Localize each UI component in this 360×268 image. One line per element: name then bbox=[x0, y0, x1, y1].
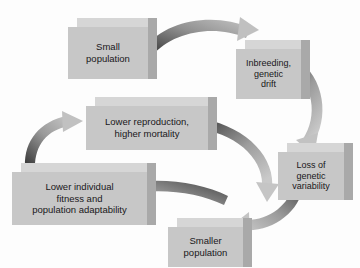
node-lower-reproduction[interactable]: Lower reproduction, higher mortality bbox=[86, 97, 217, 150]
box-top-face bbox=[77, 18, 157, 27]
box-front-face: Small population bbox=[68, 27, 148, 79]
box-front-face: Smaller population bbox=[168, 227, 243, 267]
node-small-population[interactable]: Small population bbox=[68, 18, 157, 79]
box-front-face: Loss of genetic variability bbox=[278, 152, 344, 200]
box-side-face bbox=[344, 143, 353, 200]
box-front-face: Lower individual fitness and population … bbox=[12, 172, 147, 225]
box-front-face: Lower reproduction, higher mortality bbox=[86, 106, 208, 150]
box-side-face bbox=[243, 218, 252, 267]
node-label: Loss of genetic variability bbox=[278, 160, 344, 193]
box-top-face bbox=[21, 163, 156, 172]
node-lower-individual-fitness[interactable]: Lower individual fitness and population … bbox=[12, 163, 156, 225]
box-side-face bbox=[208, 97, 217, 150]
node-label: Lower reproduction, higher mortality bbox=[86, 116, 208, 139]
box-side-face bbox=[147, 163, 156, 225]
box-side-face bbox=[301, 40, 310, 99]
node-smaller-population[interactable]: Smaller population bbox=[168, 218, 252, 267]
node-label: Lower individual fitness and population … bbox=[12, 181, 147, 216]
box-front-face: Inbreeding, genetic drift bbox=[236, 49, 301, 99]
node-label: Smaller population bbox=[168, 235, 243, 258]
extinction-vortex-diagram: Small population Inbreeding, genetic dri… bbox=[0, 0, 360, 268]
node-inbreeding-genetic-drift[interactable]: Inbreeding, genetic drift bbox=[236, 40, 310, 99]
arrow-fitness-to-reproduction bbox=[25, 111, 83, 167]
node-loss-of-genetic-variability[interactable]: Loss of genetic variability bbox=[278, 143, 353, 200]
box-top-face bbox=[95, 97, 217, 106]
node-label: Small population bbox=[68, 41, 148, 64]
box-top-face bbox=[177, 218, 252, 227]
box-side-face bbox=[148, 18, 157, 79]
node-label: Inbreeding, genetic drift bbox=[236, 58, 301, 91]
